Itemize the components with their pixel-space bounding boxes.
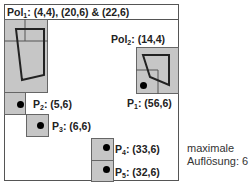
point-p5-dot: [103, 166, 110, 173]
point-p1-dot: [140, 82, 147, 89]
resolution-note-line1: maximale: [187, 142, 248, 155]
p4-label: P4: (33,6): [115, 143, 160, 159]
polygon-1: [16, 29, 44, 80]
point-p3-dot: [37, 122, 44, 129]
resolution-note-line2: Auflösung: 6: [187, 155, 248, 168]
point-p4-dot: [103, 144, 110, 151]
p2-label: P2: (5,6): [33, 98, 72, 114]
p5-label: P5: (32,6): [115, 166, 160, 182]
p3-label: P3: (6,6): [52, 120, 91, 136]
p1-label: P1: (56,6): [127, 97, 172, 113]
resolution-note: maximale Auflösung: 6: [187, 142, 248, 168]
pol2-label: Pol2: (14,4): [111, 33, 165, 49]
pol1-label: Pol1: (4,4), (20,6) & (22,6): [7, 6, 129, 22]
point-p2-dot: [17, 101, 24, 108]
